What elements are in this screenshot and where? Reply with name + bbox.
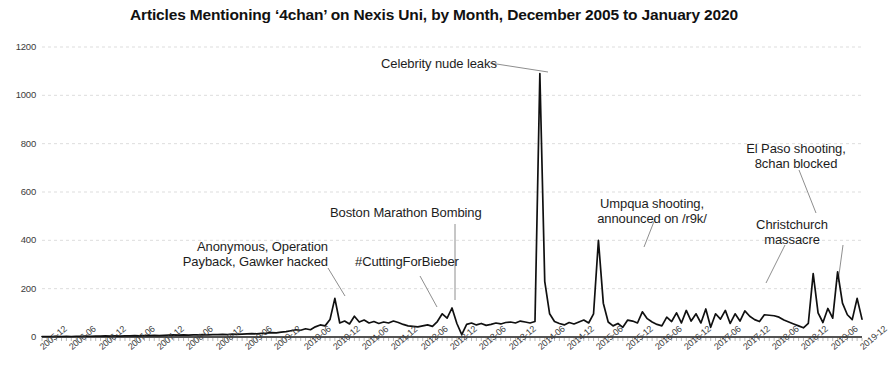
annotation-line-1: Umpqua shooting, [577, 197, 727, 212]
annotation-celebrity-nude-leaks: Celebrity nude leaks [381, 57, 497, 72]
y-axis-tick-label: 0 [2, 331, 36, 342]
annotation-line-2: Payback, Gawker hacked [142, 255, 328, 270]
annotation-leader-lines [328, 63, 843, 307]
annotation-line-1: #CuttingForBieber [355, 255, 459, 270]
annotation-line-2: announced on /r9k/ [577, 212, 727, 227]
y-axis-tick-label: 400 [2, 234, 36, 245]
y-axis-tick-label: 1200 [2, 41, 36, 52]
annotation-line-1: Boston Marathon Bombing [330, 206, 482, 221]
y-axis-tick-label: 1000 [2, 89, 36, 100]
annotation-line-1: El Paso shooting, [724, 142, 868, 157]
annotation-line-1: Anonymous, Operation [142, 240, 328, 255]
annotation-leader-line [420, 276, 437, 307]
annotation-leader-line [490, 63, 548, 72]
annotation-boston-marathon: Boston Marathon Bombing [330, 206, 482, 221]
annotation-leader-line [766, 245, 785, 283]
annotation-line-2: 8chan blocked [724, 157, 868, 172]
annotation-line-2: massacre [730, 233, 854, 248]
annotation-el-paso-shooting: El Paso shooting, 8chan blocked [724, 142, 868, 171]
annotation-christchurch-massacre: Christchurch massacre [730, 218, 854, 247]
y-axis-tick-label: 600 [2, 186, 36, 197]
annotation-anonymous: Anonymous, Operation Payback, Gawker hac… [142, 240, 328, 269]
annotation-leader-line [328, 268, 345, 296]
annotation-umpqua-shooting: Umpqua shooting, announced on /r9k/ [577, 197, 727, 226]
y-axis-tick-label: 800 [2, 138, 36, 149]
annotation-line-1: Celebrity nude leaks [381, 57, 497, 72]
y-axis-tick-label: 200 [2, 283, 36, 294]
annotation-leader-line [799, 170, 816, 213]
annotation-line-1: Christchurch [730, 218, 854, 233]
annotation-cutting-for-bieber: #CuttingForBieber [355, 255, 459, 270]
